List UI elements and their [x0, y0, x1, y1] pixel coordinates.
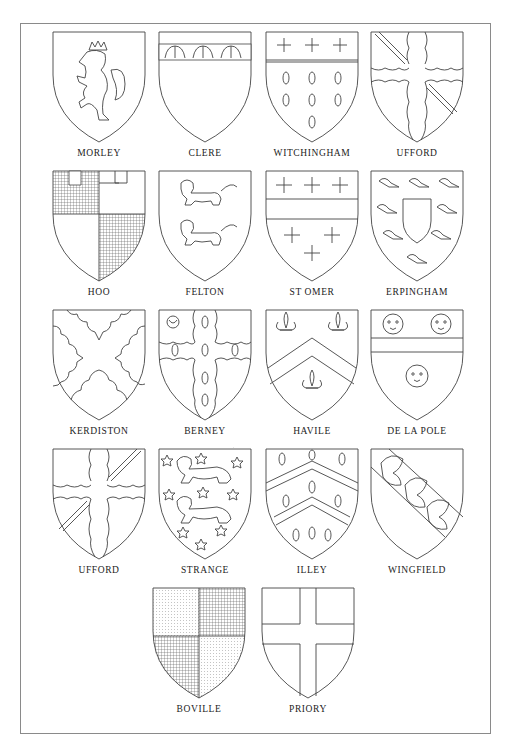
martlets-inescutcheon-icon: [367, 169, 467, 284]
shield-label: KERDISTON: [39, 426, 159, 436]
plain-cross-icon: [258, 586, 358, 701]
lion-rampant-icon: [49, 30, 149, 145]
shield-label: UFFORD: [357, 148, 477, 158]
chevrons-ermine-icon: [262, 447, 362, 562]
saltire-engrailed-icon: [49, 308, 149, 423]
shield-wingfield: WINGFIELD: [367, 447, 467, 562]
shield-felton: FELTON: [155, 169, 255, 284]
cross-engrailed-icon: [49, 447, 149, 562]
shield-priory: PRIORY: [258, 586, 358, 701]
shield-morley: MORLEY: [49, 30, 149, 145]
lions-stars-icon: [155, 447, 255, 562]
shield-havile: HAVILE: [262, 308, 362, 423]
shield-st-omer: ST OMER: [262, 169, 362, 284]
chevron-fleurs-icon: [262, 308, 362, 423]
shield-erpingham: ERPINGHAM: [367, 169, 467, 284]
leopards-faces-icon: [367, 308, 467, 423]
lions-passant-icon: [155, 169, 255, 284]
cross-ermine-crescent-icon: [155, 308, 255, 423]
shield-label: ILLEY: [252, 565, 372, 575]
shield-strange: STRANGE: [155, 447, 255, 562]
shield-label: STRANGE: [145, 565, 265, 575]
shield-label: MORLEY: [39, 148, 159, 158]
shield-hoo: HOO: [49, 169, 149, 284]
shield-witchingham: WITCHINGHAM: [262, 30, 362, 145]
fess-crosslets-icon: [262, 169, 362, 284]
shield-label: PRIORY: [248, 704, 368, 714]
shield-label: WINGFIELD: [357, 565, 477, 575]
bend-wings-icon: [367, 447, 467, 562]
shield-label: UFFORD: [39, 565, 159, 575]
crosses-ermine-icon: [262, 30, 362, 145]
shield-boville: BOVILLE: [149, 586, 249, 701]
shield-ufford-2: UFFORD: [49, 447, 149, 562]
quarterly-dotted-checked-icon: [149, 586, 249, 701]
shield-label: FELTON: [145, 287, 265, 297]
shield-label: DE LA POLE: [357, 426, 477, 436]
shield-ufford-1: UFFORD: [367, 30, 467, 145]
shield-label: HOO: [39, 287, 159, 297]
quarterly-battlements-icon: [49, 169, 149, 284]
shield-kerdiston: KERDISTON: [49, 308, 149, 423]
shield-label: HAVILE: [252, 426, 372, 436]
shield-label: ST OMER: [252, 287, 372, 297]
shield-de-la-pole: DE LA POLE: [367, 308, 467, 423]
cross-engrailed-icon: [367, 30, 467, 145]
shield-label: ERPINGHAM: [357, 287, 477, 297]
shield-label: BOVILLE: [139, 704, 259, 714]
shield-label: WITCHINGHAM: [252, 148, 372, 158]
shield-berney: BERNEY: [155, 308, 255, 423]
shield-label: CLERE: [145, 148, 265, 158]
shield-illey: ILLEY: [262, 447, 362, 562]
shield-label: BERNEY: [145, 426, 265, 436]
shield-clere: CLERE: [155, 30, 255, 145]
eagles-chief-icon: [155, 30, 255, 145]
